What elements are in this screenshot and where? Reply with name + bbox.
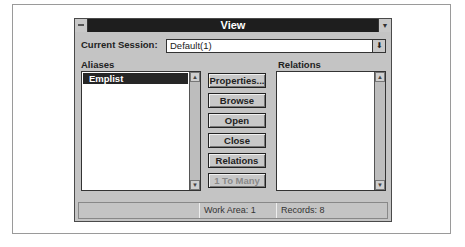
- aliases-scrollbar[interactable]: ▲ ▼: [189, 72, 200, 190]
- scroll-up-icon[interactable]: ▲: [190, 72, 200, 82]
- relations-list[interactable]: ▲ ▼: [276, 71, 386, 191]
- scroll-up-icon[interactable]: ▲: [375, 72, 385, 82]
- scroll-down-icon[interactable]: ▼: [375, 180, 385, 190]
- session-dropdown[interactable]: Default(1) ⬇: [166, 39, 386, 53]
- aliases-list[interactable]: Emplist ▲ ▼: [81, 71, 201, 191]
- aliases-label: Aliases: [81, 59, 114, 70]
- status-bar: Work Area: 1 Records: 8: [78, 202, 388, 219]
- status-work-area: Work Area: 1: [199, 203, 274, 218]
- properties-button[interactable]: Properties...: [208, 73, 266, 88]
- list-item[interactable]: Emplist: [83, 73, 188, 84]
- title-bar[interactable]: View ▼: [75, 19, 391, 32]
- window-title: View: [75, 19, 391, 32]
- session-label: Current Session:: [81, 39, 158, 50]
- arrow-down-icon[interactable]: ⬇: [372, 40, 385, 52]
- minimize-button[interactable]: ▼: [378, 19, 391, 32]
- open-button[interactable]: Open: [208, 113, 266, 128]
- relations-button[interactable]: Relations: [208, 153, 266, 168]
- one-to-many-button[interactable]: 1 To Many: [208, 173, 266, 188]
- status-records: Records: 8: [276, 203, 391, 218]
- relations-label: Relations: [278, 59, 321, 70]
- chevron-down-icon: ▼: [382, 22, 389, 29]
- relations-scrollbar[interactable]: ▲ ▼: [374, 72, 385, 190]
- close-button[interactable]: Close: [208, 133, 266, 148]
- status-cell-blank: [79, 203, 199, 218]
- browse-button[interactable]: Browse: [208, 93, 266, 108]
- scroll-down-icon[interactable]: ▼: [190, 180, 200, 190]
- view-window: View ▼ Current Session: Default(1) ⬇ Ali…: [74, 18, 392, 222]
- session-value: Default(1): [170, 40, 212, 52]
